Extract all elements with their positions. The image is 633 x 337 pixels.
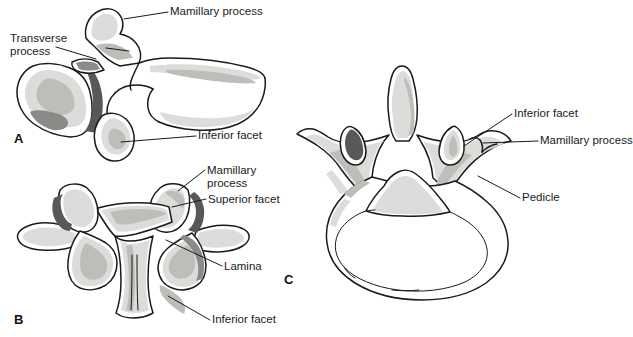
label-b-mamillary-process-line1: Mamillary — [207, 164, 256, 177]
label-b-lamina: Lamina — [224, 260, 262, 273]
label-a-inferior-facet: Inferior facet — [198, 129, 262, 142]
label-a-transverse-process-line2: process — [10, 45, 50, 58]
label-a-transverse-process-line1: Transverse — [10, 32, 67, 45]
panel-letter-c: C — [284, 272, 294, 287]
label-c-inferior-facet: Inferior facet — [514, 107, 578, 120]
label-c-mamillary-process: Mamillary process — [540, 134, 633, 147]
panel-letter-a: A — [14, 131, 24, 146]
label-b-superior-facet: Superior facet — [208, 193, 280, 206]
label-b-inferior-facet: Inferior facet — [212, 313, 276, 326]
panel-letter-b: B — [14, 312, 24, 327]
panel-c-superior-vertebra — [297, 66, 538, 300]
label-b-mamillary-process-line2: process — [207, 177, 247, 190]
label-a-mamillary-process: Mamillary process — [170, 5, 263, 18]
label-c-pedicle: Pedicle — [522, 191, 560, 204]
